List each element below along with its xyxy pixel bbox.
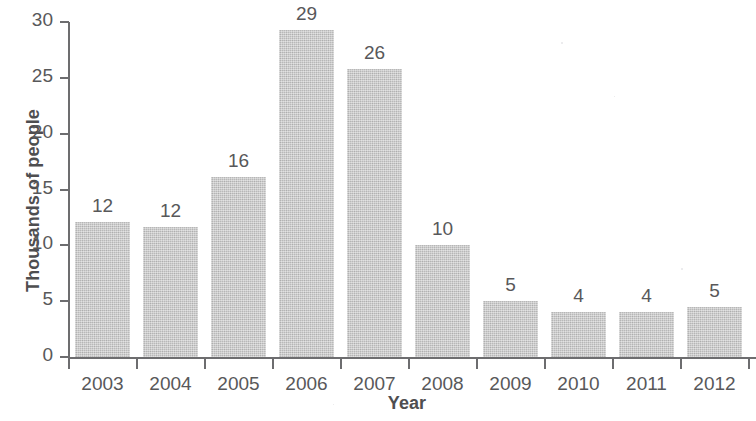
x-tick (204, 359, 206, 369)
y-tick: 0 (60, 356, 69, 358)
bar (415, 245, 470, 357)
scan-speckle (681, 268, 683, 270)
x-axis-line (68, 357, 756, 359)
bar-value-label: 10 (415, 219, 470, 239)
x-tick-label: 2007 (341, 373, 408, 395)
bar-value-label: 12 (143, 201, 198, 221)
y-tick-label: 15 (32, 178, 53, 198)
bar-value-label: 5 (687, 281, 742, 301)
x-tick (340, 359, 342, 369)
x-tick-label: 2011 (613, 373, 680, 395)
bar-chart: Thousands of people Year 051015202530 12… (0, 0, 756, 421)
y-tick: 20 (60, 133, 69, 135)
bar (211, 177, 266, 357)
x-axis-title: Year (68, 393, 746, 414)
x-tick-label: 2005 (205, 373, 272, 395)
bar (687, 307, 742, 357)
x-tick-label: 2006 (273, 373, 340, 395)
y-tick-label: 25 (32, 66, 53, 86)
bar (551, 312, 606, 357)
x-tick (68, 359, 70, 369)
plot-area: 051015202530 1212162926105445 2003200420… (68, 18, 756, 359)
y-tick-label: 10 (32, 233, 53, 253)
bar-value-label: 16 (211, 151, 266, 171)
x-tick (612, 359, 614, 369)
y-tick-label: 5 (42, 289, 53, 309)
y-tick: 25 (60, 77, 69, 79)
bar (347, 69, 402, 357)
y-tick: 5 (60, 300, 69, 302)
y-tick: 15 (60, 189, 69, 191)
x-tick-label: 2003 (69, 373, 136, 395)
x-tick (680, 359, 682, 369)
bar-value-label: 26 (347, 43, 402, 63)
bar-value-label: 5 (483, 275, 538, 295)
scan-speckle (614, 96, 615, 97)
x-tick (408, 359, 410, 369)
y-tick: 10 (60, 244, 69, 246)
x-tick-label: 2010 (545, 373, 612, 395)
bar-value-label: 29 (279, 4, 334, 24)
bar-value-label: 4 (551, 286, 606, 306)
scan-speckle (561, 42, 563, 44)
y-tick: 30 (60, 21, 69, 23)
x-tick-label: 2009 (477, 373, 544, 395)
y-tick-label: 0 (42, 345, 53, 365)
bar (279, 30, 334, 357)
y-tick-label: 30 (32, 10, 53, 30)
bar (75, 222, 130, 357)
bar (619, 312, 674, 357)
bar (143, 227, 198, 357)
y-axis-title: Thousands of people (23, 51, 44, 351)
x-tick (748, 359, 750, 369)
x-tick (136, 359, 138, 369)
x-tick-label: 2004 (137, 373, 204, 395)
x-tick (272, 359, 274, 369)
bar-value-label: 12 (75, 196, 130, 216)
x-tick (544, 359, 546, 369)
bar (483, 301, 538, 357)
x-tick-label: 2008 (409, 373, 476, 395)
y-axis-line (68, 22, 70, 359)
bar-value-label: 4 (619, 286, 674, 306)
scan-speckle (333, 404, 334, 405)
x-tick (476, 359, 478, 369)
y-tick-label: 20 (32, 122, 53, 142)
x-tick-label: 2012 (681, 373, 748, 395)
